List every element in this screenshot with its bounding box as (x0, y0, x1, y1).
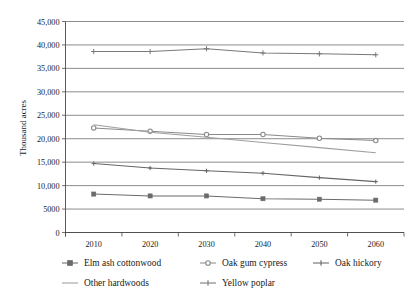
legend-label: Oak gum cypress (222, 258, 287, 268)
x-tick-label: 2020 (142, 240, 158, 249)
legend-label: Other hardwoods (84, 278, 149, 288)
y-tick-label: 15,000 (37, 158, 60, 167)
y-tick-label: 10,000 (37, 182, 60, 191)
y-tick-label: 40,000 (37, 41, 60, 50)
series-marker (374, 138, 378, 142)
y-tick-label: 45,000 (37, 18, 60, 27)
y-tick-label: 25,000 (37, 111, 60, 120)
x-tick-label: 2030 (198, 240, 214, 249)
line-chart: 0500010,00015,00020,00025,00030,00035,00… (0, 0, 412, 303)
series-marker (261, 197, 265, 201)
y-tick-label: 35,000 (37, 64, 60, 73)
y-tick-label: 30,000 (37, 88, 60, 97)
series-marker (92, 192, 96, 196)
legend-label: Elm ash cottonwood (84, 258, 161, 268)
series-marker (92, 126, 96, 130)
x-tick-label: 2010 (86, 240, 102, 249)
series-line-0 (94, 194, 376, 200)
y-tick-label: 5000 (43, 205, 59, 214)
square-marker-icon (68, 261, 73, 266)
x-tick-label: 2060 (368, 240, 384, 249)
series-line-2 (94, 164, 376, 182)
series-marker (261, 132, 265, 136)
legend-item[interactable]: Oak gum cypress (200, 258, 287, 268)
series-line-4 (94, 49, 376, 55)
y-tick-label: 20,000 (37, 135, 60, 144)
series-marker (317, 197, 321, 201)
y-tick-label: 0 (55, 229, 59, 238)
legend-item[interactable]: Other hardwoods (62, 278, 149, 288)
legend-item[interactable]: Oak hickory (313, 258, 382, 268)
legend-item[interactable]: Elm ash cottonwood (62, 258, 161, 268)
y-axis-title: Thousand acres (18, 99, 28, 156)
series-marker (374, 198, 378, 202)
legend-label: Oak hickory (335, 258, 382, 268)
x-tick-label: 2040 (255, 240, 271, 249)
legend-label: Yellow poplar (222, 278, 276, 288)
series-marker (148, 194, 152, 198)
x-tick-label: 2050 (311, 240, 327, 249)
circle-marker-icon (206, 261, 211, 266)
series-marker (204, 194, 208, 198)
series-marker (317, 136, 321, 140)
chart-figure: 0500010,00015,00020,00025,00030,00035,00… (0, 0, 412, 303)
series-marker (204, 132, 208, 136)
legend-item[interactable]: Yellow poplar (200, 278, 276, 288)
